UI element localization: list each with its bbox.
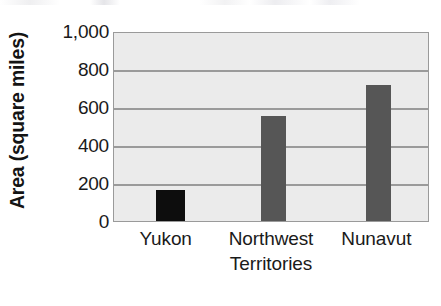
bar-yukon: [156, 190, 185, 221]
x-tick-label-line: Yukon: [113, 226, 218, 251]
x-tick-label: Nunavut: [324, 226, 429, 251]
y-axis-title-text: Area (square miles): [7, 31, 30, 208]
y-tick-label: 400: [36, 136, 109, 156]
x-tick-label-line: Nunavut: [324, 226, 429, 251]
bars-layer: [114, 33, 428, 221]
y-tick-label: 200: [36, 174, 109, 194]
plot-area: [113, 32, 429, 222]
y-tick-label: 600: [36, 98, 109, 118]
scan-artifact: [0, 0, 441, 5]
x-tick-label: Yukon: [113, 226, 218, 251]
x-tick-label-line: Territories: [218, 251, 323, 276]
x-axis-tick-labels: YukonNorthwestTerritoriesNunavut: [113, 226, 429, 300]
bar-northwest-territories: [261, 116, 286, 221]
y-axis-title: Area (square miles): [0, 0, 36, 240]
bar-nunavut: [366, 85, 391, 221]
bar-chart-figure: Area (square miles) 02004006008001,000 Y…: [0, 0, 441, 306]
x-tick-label-line: Northwest: [218, 226, 323, 251]
y-axis-tick-labels: 02004006008001,000: [36, 22, 109, 232]
y-tick-label: 0: [36, 212, 109, 232]
y-tick-label: 800: [36, 60, 109, 80]
y-tick-label: 1,000: [36, 22, 109, 42]
x-tick-label: NorthwestTerritories: [218, 226, 323, 276]
